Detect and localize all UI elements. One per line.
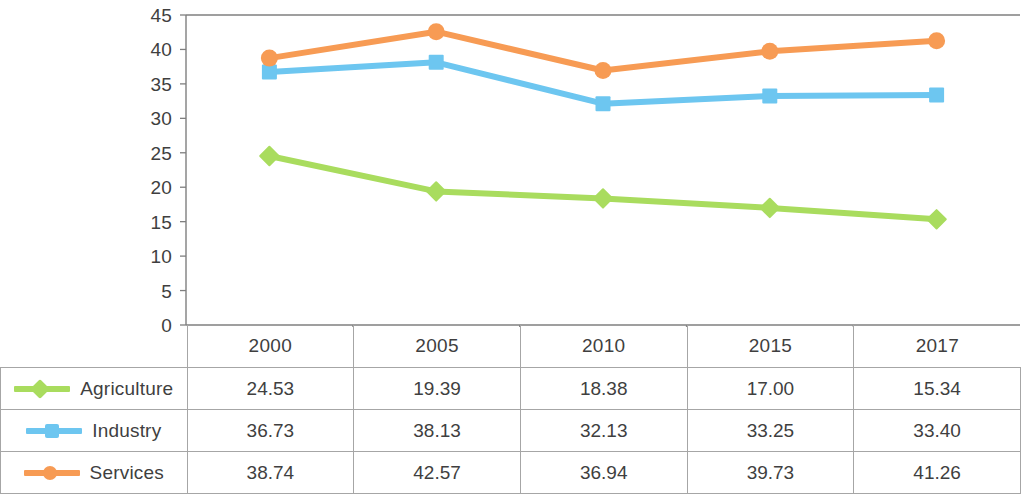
legend-marker-circle-icon — [43, 466, 57, 480]
legend-label: Agriculture — [80, 378, 173, 400]
legend-diamond-marker-icon — [14, 378, 70, 400]
cell-industry-2017: 33.40 — [854, 410, 1021, 452]
data-point-services-2000 — [261, 50, 278, 67]
data-point-services-2017 — [928, 32, 945, 49]
y-axis-tick-35: 35 — [132, 75, 172, 94]
y-axis-tick-25: 25 — [132, 144, 172, 163]
data-point-agriculture-2000 — [259, 145, 280, 166]
legend-marker-diamond-icon — [30, 379, 50, 399]
data-point-industry-2005 — [429, 55, 444, 70]
data-point-services-2005 — [428, 23, 445, 40]
table-row: Industry36.7338.1332.1333.2533.40 — [1, 410, 1021, 452]
y-axis-tick-5: 5 — [132, 282, 172, 301]
y-axis-tick-30: 30 — [132, 109, 172, 128]
plot-area: 454035302520151050 — [0, 0, 1021, 360]
y-axis-tick-labels: 454035302520151050 — [132, 0, 172, 340]
data-point-industry-2015 — [762, 88, 777, 103]
data-point-agriculture-2005 — [426, 181, 447, 202]
series-agriculture — [259, 145, 947, 230]
data-point-industry-2017 — [929, 87, 944, 102]
cell-agriculture-2005: 19.39 — [354, 368, 521, 410]
y-axis-tick-10: 10 — [132, 247, 172, 266]
y-axis-tick-45: 45 — [132, 6, 172, 25]
column-header-2010: 2010 — [520, 325, 687, 368]
table-row: Agriculture24.5319.3918.3817.0015.34 — [1, 368, 1021, 410]
legend-square-marker-icon — [26, 420, 82, 442]
column-header-label: 2015 — [749, 335, 792, 356]
legend-label: Services — [90, 462, 164, 484]
cell-industry-2010: 32.13 — [520, 410, 687, 452]
column-header-2000: 2000 — [187, 325, 354, 368]
y-axis-tick-15: 15 — [132, 213, 172, 232]
table-header-row: 20002005201020152017 — [1, 325, 1021, 368]
column-header-label: 2000 — [249, 335, 292, 356]
column-header-2005: 2005 — [354, 325, 521, 368]
cell-services-2017: 41.26 — [854, 452, 1021, 494]
series-services — [261, 23, 945, 79]
data-point-agriculture-2010 — [592, 188, 613, 209]
data-point-services-2015 — [761, 43, 778, 60]
legend-cell-industry: Industry — [1, 410, 188, 452]
column-header-label: 2005 — [415, 335, 458, 356]
cell-agriculture-2017: 15.34 — [854, 368, 1021, 410]
column-header-2017: 2017 — [854, 325, 1021, 368]
cell-services-2015: 39.73 — [687, 452, 854, 494]
data-table: 20002005201020152017Agriculture24.5319.3… — [0, 325, 1021, 494]
column-header-label: 2017 — [916, 335, 959, 356]
legend-cell-agriculture: Agriculture — [1, 368, 188, 410]
legend-circle-marker-icon — [24, 462, 80, 484]
cell-industry-2005: 38.13 — [354, 410, 521, 452]
data-point-services-2010 — [595, 62, 612, 79]
column-header-label: 2010 — [582, 335, 625, 356]
y-axis-tick-20: 20 — [132, 178, 172, 197]
data-point-industry-2010 — [596, 96, 611, 111]
legend-cell-services: Services — [1, 452, 188, 494]
legend-marker-square-icon — [45, 424, 59, 438]
data-point-industry-2000 — [262, 64, 277, 79]
cell-services-2005: 42.57 — [354, 452, 521, 494]
table-corner-cell — [1, 325, 188, 368]
column-header-2015: 2015 — [687, 325, 854, 368]
table-row: Services38.7442.5736.9439.7341.26 — [1, 452, 1021, 494]
legend-label: Industry — [92, 420, 161, 442]
cell-services-2010: 36.94 — [520, 452, 687, 494]
cell-agriculture-2000: 24.53 — [187, 368, 354, 410]
y-axis-tick-40: 40 — [132, 40, 172, 59]
data-point-agriculture-2015 — [759, 197, 780, 218]
cell-agriculture-2010: 18.38 — [520, 368, 687, 410]
cell-industry-2015: 33.25 — [687, 410, 854, 452]
data-point-agriculture-2017 — [926, 209, 947, 230]
cell-industry-2000: 36.73 — [187, 410, 354, 452]
cell-agriculture-2015: 17.00 — [687, 368, 854, 410]
series-line-agriculture — [269, 156, 936, 219]
cell-services-2000: 38.74 — [187, 452, 354, 494]
